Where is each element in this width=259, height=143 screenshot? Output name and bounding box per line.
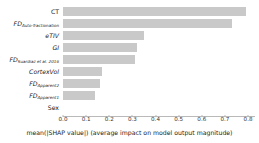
y-axis-tick-label-row: CT: [0, 6, 61, 18]
feature-name: FD: [10, 56, 18, 63]
y-axis-tick-label-row: eTIV: [0, 30, 61, 42]
x-axis-tick-label: 0.1: [82, 117, 91, 123]
feature-subscript: Apparent2: [37, 83, 59, 88]
x-axis-tick-label: 0.2: [105, 117, 114, 123]
bar-row: [63, 18, 255, 30]
y-axis-tick-label-row: FDApparent2: [0, 78, 61, 90]
y-axis-tick-label: FDApparent2: [29, 81, 59, 87]
feature-subscript: Suardiaz et al. 2016: [18, 59, 59, 64]
bar: [63, 79, 100, 88]
shap-feature-importance-chart: CTFDAuto-fractionationeTIVGIFDSuardiaz e…: [0, 0, 259, 143]
feature-subscript: Apparent1: [37, 95, 59, 100]
bar-row: [63, 54, 255, 66]
bar: [63, 19, 232, 28]
x-axis-tick-label: 0.7: [220, 117, 229, 123]
y-axis-tick-label: CT: [51, 9, 59, 15]
bar: [63, 7, 246, 16]
x-axis-tick-label: 0.5: [174, 117, 183, 123]
x-axis-title: mean(|SHAP value|) (average impact on mo…: [0, 130, 259, 136]
x-axis-tick-label: 0.3: [128, 117, 137, 123]
bar: [63, 31, 144, 40]
x-axis-tick-label: 0.8: [244, 117, 253, 123]
y-axis-tick-label: FDSuardiaz et al. 2016: [10, 57, 60, 63]
plot-area: [63, 6, 255, 114]
bar-row: [63, 102, 255, 114]
y-axis-tick-label-row: GI: [0, 42, 61, 54]
y-axis-tick-label-row: FDSuardiaz et al. 2016: [0, 54, 61, 66]
y-axis-tick-label: FDAuto-fractionation: [14, 21, 59, 27]
feature-name: CT: [51, 8, 59, 15]
y-axis-tick-label: FDApparent1: [29, 93, 59, 99]
feature-name: eTIV: [45, 32, 59, 39]
feature-name: GI: [52, 44, 59, 51]
x-axis-tick-label: 0.0: [59, 117, 68, 123]
y-axis-tick-label-row: FDAuto-fractionation: [0, 18, 61, 30]
y-axis-tick-label: CortexVol: [29, 69, 59, 75]
y-axis-tick-labels: CTFDAuto-fractionationeTIVGIFDSuardiaz e…: [0, 6, 61, 114]
bar-row: [63, 6, 255, 18]
x-axis-tick-labels: 0.00.10.20.30.40.50.60.70.8: [63, 117, 255, 126]
bar-row: [63, 30, 255, 42]
feature-name: Sex: [48, 104, 59, 111]
y-axis-tick-label: Sex: [48, 105, 59, 111]
bar-row: [63, 42, 255, 54]
bar: [63, 55, 135, 64]
feature-name: FD: [14, 20, 22, 27]
y-axis-tick-label: GI: [52, 45, 59, 51]
feature-subscript: Auto-fractionation: [22, 23, 59, 28]
y-axis-tick-label-row: Sex: [0, 102, 61, 114]
x-axis-tick-label: 0.6: [197, 117, 206, 123]
bar: [63, 67, 102, 76]
y-axis-tick-label: eTIV: [45, 33, 59, 39]
bar-row: [63, 66, 255, 78]
feature-name: CortexVol: [29, 68, 59, 75]
bar: [63, 43, 137, 52]
bar-row: [63, 78, 255, 90]
y-axis-tick-label-row: FDApparent1: [0, 90, 61, 102]
bar: [63, 91, 95, 100]
y-axis-tick-label-row: CortexVol: [0, 66, 61, 78]
x-axis-tick-label: 0.4: [151, 117, 160, 123]
bar-row: [63, 90, 255, 102]
